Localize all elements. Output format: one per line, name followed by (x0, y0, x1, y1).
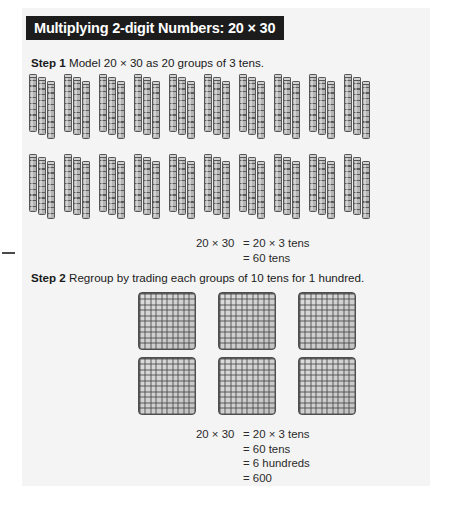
ten-rod (187, 161, 195, 219)
equation-line: 20 × 30= 20 × 3 tens (196, 427, 310, 442)
ten-rod (292, 81, 300, 139)
ten-rod (353, 77, 361, 135)
equation-line: = 60 tens (196, 442, 310, 457)
ten-rod-group (204, 154, 230, 219)
ten-rod (152, 81, 160, 139)
step-2-label: Step 2 (31, 271, 66, 284)
ten-rod (64, 74, 72, 132)
ten-rod (99, 74, 107, 132)
step-1-text: Model 20 × 30 as 20 groups of 3 tens. (66, 56, 264, 69)
ten-rod (204, 154, 212, 212)
ten-rod-group (64, 154, 90, 219)
equation-right-side: = 60 tens (243, 252, 290, 264)
ten-rod (327, 161, 335, 219)
ten-rod (38, 157, 46, 215)
ten-rod (318, 77, 326, 135)
ten-rod-group (274, 74, 300, 139)
ten-rod (73, 77, 81, 135)
ten-rod (29, 154, 37, 212)
step-2-instruction: Step 2 Regroup by trading each groups of… (31, 272, 364, 284)
ten-rod-group (344, 74, 370, 139)
ten-rod (362, 81, 370, 139)
ten-rod (117, 81, 125, 139)
ten-rod (257, 161, 265, 219)
ten-rod (108, 157, 116, 215)
ten-rod-group (274, 154, 300, 219)
ten-rod (38, 77, 46, 135)
ten-rod (117, 161, 125, 219)
ten-rod (309, 74, 317, 132)
ten-rod-group (134, 74, 160, 139)
ten-rod (143, 77, 151, 135)
equation-line: = 600 (196, 471, 310, 486)
ten-rod-group (204, 74, 230, 139)
equation-left-side: 20 × 30 (196, 236, 243, 251)
ten-rod (169, 154, 177, 212)
ten-rod (178, 77, 186, 135)
hundred-flat (298, 357, 356, 415)
hundred-flat-row-1 (138, 292, 356, 350)
ten-rod (187, 81, 195, 139)
ten-rod (82, 81, 90, 139)
ten-rod (29, 74, 37, 132)
ten-rod (283, 77, 291, 135)
page-title: Multiplying 2-digit Numbers: 20 × 30 (34, 21, 275, 36)
ten-rod (353, 157, 361, 215)
hundred-flat (218, 357, 276, 415)
ten-rod (178, 157, 186, 215)
margin-tick-mark (2, 252, 15, 254)
step-2-text: Regroup by trading each groups of 10 ten… (66, 271, 364, 284)
equation-line: = 6 hundreds (196, 456, 310, 471)
ten-rod (152, 161, 160, 219)
equation-right-side: = 600 (243, 472, 272, 484)
ten-rod (134, 154, 142, 212)
ten-rod (309, 154, 317, 212)
ten-rod (213, 157, 221, 215)
ten-rod (248, 77, 256, 135)
lesson-title-bar: Multiplying 2-digit Numbers: 20 × 30 (26, 16, 284, 40)
ten-rod (134, 74, 142, 132)
hundred-flat (218, 292, 276, 350)
ten-rod (274, 154, 282, 212)
hundred-flat-row-2 (138, 357, 356, 415)
ten-rod (239, 74, 247, 132)
ten-rod (344, 74, 352, 132)
ten-rod (239, 154, 247, 212)
ten-rod (257, 81, 265, 139)
ten-rod-row-2 (29, 154, 370, 219)
ten-rod (143, 157, 151, 215)
ten-rod (292, 161, 300, 219)
equation-right-side: = 6 hundreds (243, 457, 310, 469)
ten-rod-group (29, 74, 55, 139)
step-1-instruction: Step 1 Model 20 × 30 as 20 groups of 3 t… (31, 57, 264, 69)
ten-rod-group (309, 74, 335, 139)
ten-rod (222, 161, 230, 219)
hundred-flat (138, 357, 196, 415)
ten-rod (344, 154, 352, 212)
step-2-equation: 20 × 30= 20 × 3 tens= 60 tens= 6 hundred… (196, 427, 310, 485)
ten-rod (274, 74, 282, 132)
equation-right-side: = 20 × 3 tens (243, 237, 310, 249)
ten-rod-group (169, 74, 195, 139)
ten-rod-group (99, 74, 125, 139)
ten-rod (108, 77, 116, 135)
ten-rod (99, 154, 107, 212)
ten-rod (82, 161, 90, 219)
hundred-flat (138, 292, 196, 350)
ten-rod (318, 157, 326, 215)
ten-rod-group (239, 74, 265, 139)
hundred-flat (298, 292, 356, 350)
ten-rod (204, 74, 212, 132)
ten-rod-group (344, 154, 370, 219)
ten-rod-group (309, 154, 335, 219)
ten-rod (248, 157, 256, 215)
ten-rod-row-1 (29, 74, 370, 139)
step-1-label: Step 1 (31, 56, 66, 69)
equation-right-side: = 60 tens (243, 443, 290, 455)
ten-rod-group (169, 154, 195, 219)
ten-rod (47, 161, 55, 219)
ten-rod (283, 157, 291, 215)
ten-rod (327, 81, 335, 139)
equation-line: 20 × 30= 20 × 3 tens (196, 236, 310, 251)
ten-rod-group (134, 154, 160, 219)
